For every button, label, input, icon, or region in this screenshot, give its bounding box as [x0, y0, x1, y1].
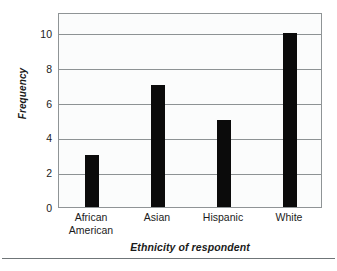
x-axis-tick-labels: AfricanAmericanAsianHispanicWhite [58, 211, 322, 243]
bar [283, 33, 297, 207]
bar [151, 85, 165, 207]
gridline [59, 139, 321, 140]
y-axis-tick-label: 2 [26, 168, 52, 178]
x-axis-title: Ethnicity of respondent [58, 241, 322, 253]
bar [85, 155, 99, 207]
plot-inner [59, 14, 321, 207]
y-axis-tick-label: 0 [26, 203, 52, 213]
y-axis-tick-labels: 0246810 [26, 13, 52, 208]
y-axis-tick-label: 6 [26, 99, 52, 109]
bar-chart-figure: Frequency 0246810 AfricanAmericanAsianHi… [0, 0, 337, 271]
y-axis-tick-label: 4 [26, 133, 52, 143]
x-axis-tick-label-line: White [249, 211, 329, 224]
bottom-divider-rule [2, 258, 335, 259]
x-axis-tick-label: White [249, 211, 329, 224]
y-axis-tick-label: 10 [26, 29, 52, 39]
gridline [59, 34, 321, 35]
gridline [59, 69, 321, 70]
y-axis-tick-label: 8 [26, 64, 52, 74]
gridline [59, 104, 321, 105]
bar [217, 120, 231, 207]
x-axis-tick-label-line: American [51, 224, 131, 237]
plot-area [58, 13, 322, 208]
